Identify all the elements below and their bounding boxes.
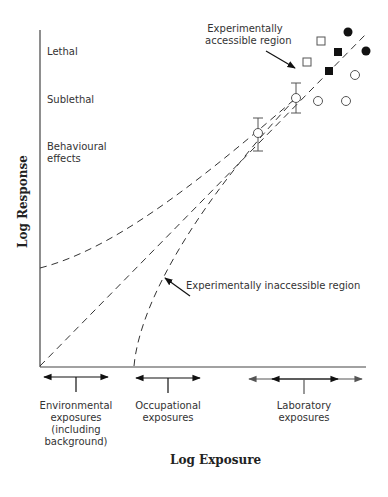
occ-line2: exposures [128, 412, 208, 424]
open-circle-marker [351, 71, 360, 80]
y-level-sublethal: Sublethal [47, 94, 94, 106]
env-line4: background) [36, 436, 116, 448]
occupational-range-arrow [136, 378, 200, 393]
accessible-line2: accessible region [205, 35, 285, 47]
env-line2: exposures [36, 412, 116, 424]
filled-circle-marker [344, 28, 353, 37]
open-circle-marker [342, 97, 351, 106]
y-level-lethal: Lethal [47, 46, 78, 58]
environmental-exposures-label: Environmental exposures (including backg… [36, 400, 116, 448]
dose-response-curves [40, 34, 366, 366]
filled-circle-marker [362, 47, 371, 56]
y-level-behavioural-line1: Behavioural [47, 141, 107, 153]
env-line3: (including [36, 424, 116, 436]
occupational-exposures-label: Occupational exposures [128, 400, 208, 424]
occ-line1: Occupational [128, 400, 208, 412]
accessible-line1: Experimentally [205, 23, 285, 35]
lab-line1: Laboratory [264, 400, 344, 412]
open-square-marker [317, 37, 325, 45]
open-circle-marker [292, 94, 301, 103]
axes [40, 30, 366, 367]
linear-curve [40, 34, 366, 366]
laboratory-exposures-label: Laboratory exposures [264, 400, 344, 424]
x-axis-title: Log Exposure [170, 453, 261, 467]
y-axis-title: Log Response [16, 158, 30, 248]
filled-square-marker [325, 67, 333, 75]
accessible-region-arrow [266, 51, 295, 68]
y-level-behavioural: Behavioural effects [47, 141, 107, 165]
filled-square-marker [334, 48, 342, 56]
inaccessible-region-label: Experimentally inaccessible region [186, 280, 360, 292]
y-level-behavioural-line2: effects [47, 153, 107, 165]
threshold-curve [134, 98, 296, 366]
error-bar-points [253, 83, 301, 151]
accessible-region-label: Experimentally accessible region [205, 23, 285, 47]
environmental-range-arrow [44, 377, 108, 392]
open-circle-marker [314, 97, 323, 106]
lab-line2: exposures [264, 412, 344, 424]
open-circle-marker [254, 129, 263, 138]
env-line1: Environmental [36, 400, 116, 412]
open-square-marker [303, 58, 311, 66]
laboratory-range-arrow [249, 379, 362, 394]
